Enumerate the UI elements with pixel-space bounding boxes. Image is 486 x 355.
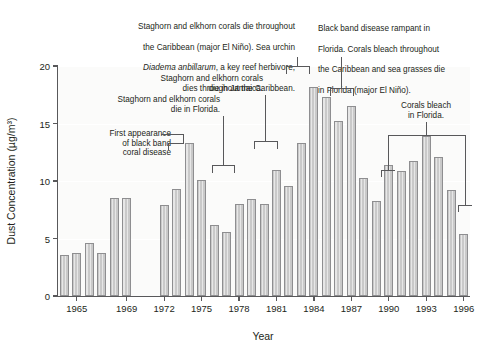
leader-line bbox=[254, 141, 277, 142]
bar bbox=[434, 157, 443, 296]
bar bbox=[222, 232, 231, 296]
bar bbox=[409, 161, 418, 296]
x-axis-tick-label: 1987 bbox=[341, 303, 362, 314]
y-axis-tick bbox=[53, 123, 58, 124]
y-axis-tick bbox=[53, 238, 58, 239]
bar bbox=[260, 204, 269, 296]
x-axis-tick-label: 1990 bbox=[378, 303, 399, 314]
x-axis-tick-label: 1984 bbox=[303, 303, 324, 314]
x-axis-tick bbox=[426, 296, 427, 301]
leader-line bbox=[168, 143, 169, 150]
bar bbox=[122, 198, 131, 296]
bar bbox=[247, 199, 256, 296]
leader-line bbox=[353, 88, 354, 96]
chart-canvas: Dust Concentration (µg/m³) Year 05101520… bbox=[0, 0, 486, 355]
leader-line bbox=[426, 122, 427, 135]
bar bbox=[322, 97, 331, 296]
y-axis-tick-label: 10 bbox=[39, 176, 50, 187]
annotation-caribbean-line4: dies throughout the Caribbean. bbox=[110, 84, 295, 94]
x-axis-tick-label: 1996 bbox=[453, 303, 474, 314]
gridline bbox=[58, 124, 470, 125]
x-axis-tick-label: 1981 bbox=[266, 303, 287, 314]
leader-line bbox=[465, 135, 466, 205]
bar bbox=[422, 136, 431, 296]
bar bbox=[384, 165, 393, 296]
y-axis-tick bbox=[53, 180, 58, 181]
annotation-caribbean: Staghorn and elkhorn corals die througho… bbox=[110, 12, 295, 105]
species-name: Diadema anbillarum bbox=[143, 63, 216, 72]
y-axis-tick bbox=[53, 65, 58, 66]
leader-line bbox=[223, 116, 224, 165]
x-axis-tick bbox=[126, 296, 127, 301]
x-axis-tick bbox=[388, 296, 389, 301]
x-axis-tick-label: 1972 bbox=[154, 303, 175, 314]
annotation-caribbean-line2: the Caribbean (major El Niño). Sea urchi… bbox=[110, 43, 295, 53]
x-axis-tick bbox=[164, 296, 165, 301]
x-axis-tick-label: 1978 bbox=[228, 303, 249, 314]
leader-line bbox=[330, 88, 331, 96]
bar bbox=[359, 178, 368, 296]
y-axis-tick-label: 0 bbox=[45, 291, 50, 302]
y-axis-tick-label: 15 bbox=[39, 118, 50, 129]
y-axis-tick-label: 5 bbox=[45, 233, 50, 244]
leader-line bbox=[286, 66, 287, 74]
leader-line bbox=[381, 170, 382, 177]
y-axis-tick-label: 20 bbox=[39, 61, 50, 72]
x-axis-tick bbox=[276, 296, 277, 301]
leader-line bbox=[254, 141, 255, 149]
bar bbox=[185, 143, 194, 296]
x-axis-tick bbox=[351, 296, 352, 301]
bar bbox=[97, 253, 106, 296]
bar bbox=[72, 253, 81, 296]
bar bbox=[459, 234, 468, 296]
leader-line bbox=[381, 170, 395, 171]
annotation-black-band: Black band disease rampant in Florida. C… bbox=[318, 14, 478, 107]
x-axis-tick bbox=[201, 296, 202, 301]
bar bbox=[372, 201, 381, 296]
bar bbox=[297, 143, 306, 296]
annotation-black-band-line3: the Caribbean and sea grasses die bbox=[318, 65, 478, 75]
y-axis-tick bbox=[53, 295, 58, 296]
leader-line bbox=[168, 143, 184, 144]
leader-line bbox=[388, 135, 389, 170]
leader-line bbox=[341, 57, 342, 88]
leader-line bbox=[297, 57, 298, 66]
bar bbox=[85, 243, 94, 296]
annotation-black-band-line1: Black band disease rampant in bbox=[318, 24, 478, 34]
bar bbox=[197, 180, 206, 296]
x-axis-tick-label: 1969 bbox=[116, 303, 137, 314]
gridline bbox=[58, 181, 470, 182]
bar bbox=[284, 186, 293, 296]
x-axis-tick bbox=[313, 296, 314, 301]
leader-line bbox=[212, 165, 213, 173]
leader-line bbox=[330, 88, 353, 89]
annotation-first-appearance: First appearance of black band coral dis… bbox=[78, 129, 171, 158]
x-axis-tick bbox=[238, 296, 239, 301]
annotation-black-band-line2: Florida. Corals bleach throughout bbox=[318, 45, 478, 55]
bar bbox=[347, 106, 356, 296]
leader-line bbox=[161, 134, 184, 135]
bar bbox=[172, 189, 181, 296]
x-axis-tick-label: 1993 bbox=[416, 303, 437, 314]
bar bbox=[397, 171, 406, 296]
annotation-caribbean-line1: Staghorn and elkhorn corals die througho… bbox=[110, 22, 295, 32]
x-axis-tick bbox=[463, 296, 464, 301]
annotation-caribbean-line3: Diadema anbillarum, a key reef herbivore… bbox=[110, 63, 295, 73]
leader-line bbox=[277, 141, 278, 149]
x-axis-tick bbox=[76, 296, 77, 301]
leader-line bbox=[458, 205, 459, 212]
bar bbox=[60, 255, 69, 296]
leader-line bbox=[388, 135, 465, 136]
y-axis-title: Dust Concentration (µg/m³) bbox=[5, 71, 17, 291]
annotation-caribbean-line3-rest: , a key reef herbivore, bbox=[216, 63, 295, 72]
bar bbox=[309, 87, 318, 296]
x-axis-title: Year bbox=[252, 330, 273, 342]
annotation-corals-bleach-florida: Corals bleach in Florida. bbox=[383, 101, 469, 120]
x-axis-tick-label: 1965 bbox=[66, 303, 87, 314]
bar bbox=[272, 170, 281, 297]
leader-line bbox=[212, 165, 234, 166]
leader-line bbox=[458, 205, 472, 206]
bar bbox=[235, 204, 244, 296]
leader-line bbox=[234, 165, 235, 173]
bar bbox=[210, 225, 219, 296]
